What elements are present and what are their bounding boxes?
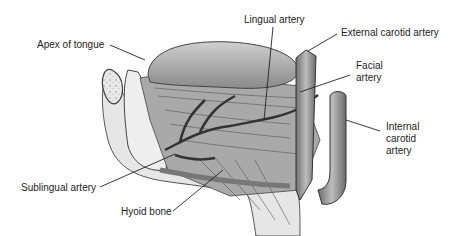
label-sublingual-artery: Sublingual artery xyxy=(21,182,96,193)
label-lingual-artery: Lingual artery xyxy=(244,14,305,25)
label-external-carotid-artery: External carotid artery xyxy=(341,27,439,38)
label-apex-of-tongue: Apex of tongue xyxy=(37,39,104,50)
label-internal-carotid-line3: artery xyxy=(386,145,412,156)
int-carotid-leader xyxy=(346,120,380,131)
anatomy-figure: Apex of tongue Lingual artery External c… xyxy=(0,0,457,236)
label-facial-artery-line1: Facial xyxy=(356,60,383,71)
label-facial-artery-line2: artery xyxy=(356,72,382,83)
label-internal-carotid-line2: carotid xyxy=(386,133,416,144)
apex-leader xyxy=(110,45,145,60)
label-internal-carotid-line1: Internal xyxy=(386,121,419,132)
ext-carotid-leader xyxy=(308,34,337,51)
label-hyoid-bone: Hyoid bone xyxy=(121,206,172,217)
